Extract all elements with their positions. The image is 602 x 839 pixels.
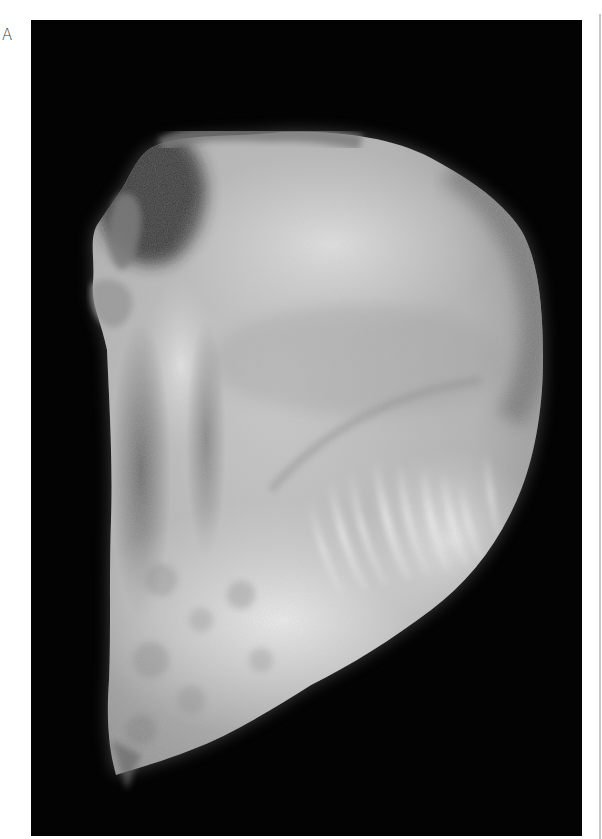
specimen-photo — [31, 20, 582, 836]
specimen-image — [31, 20, 582, 836]
panel-label: A — [2, 26, 12, 44]
right-divider-line — [599, 14, 601, 839]
